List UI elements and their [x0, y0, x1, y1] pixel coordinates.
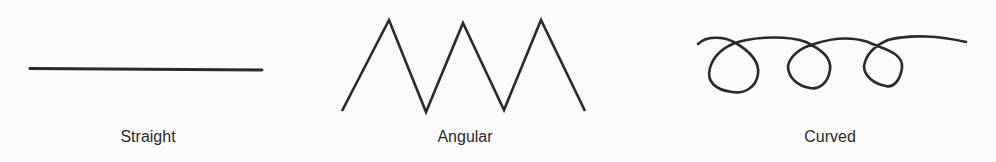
label-curved: Curved	[804, 128, 856, 146]
curved-line	[698, 36, 966, 92]
angular-line	[342, 20, 585, 112]
label-straight: Straight	[120, 128, 175, 146]
straight-line	[30, 69, 262, 71]
label-angular: Angular	[437, 128, 492, 146]
